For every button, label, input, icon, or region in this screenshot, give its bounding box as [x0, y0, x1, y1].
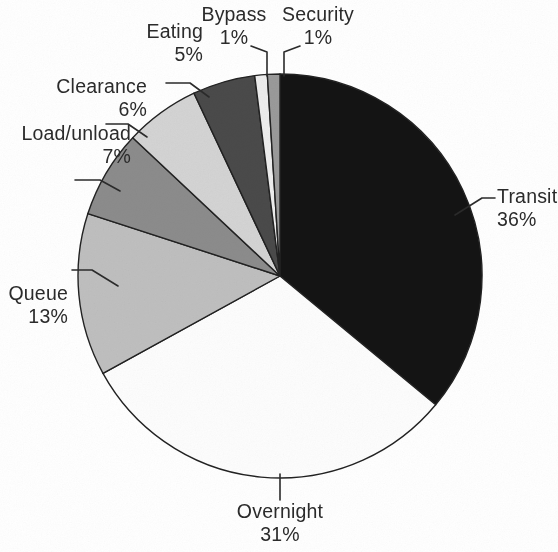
slice-label-load-unload: Load/unload 7%: [0, 122, 131, 168]
slice-label-queue-value: 13%: [0, 305, 68, 328]
slice-label-load-unload-value: 7%: [0, 145, 131, 168]
slice-label-clearance-value: 6%: [0, 98, 147, 121]
slice-label-clearance-name: Clearance: [0, 75, 147, 98]
slice-label-transit-name: Transit: [497, 185, 558, 208]
pie-chart-figure: Eating 5% Clearance 6% Load/unload 7% Qu…: [0, 0, 558, 552]
slice-label-eating: Eating 5%: [0, 20, 203, 66]
slice-label-eating-name: Eating: [0, 20, 203, 43]
slice-label-queue: Queue 13%: [0, 282, 68, 328]
slice-label-transit-value: 36%: [497, 208, 558, 231]
slice-label-clearance: Clearance 6%: [0, 75, 147, 121]
slice-label-load-unload-name: Load/unload: [0, 122, 131, 145]
slice-label-security: Security 1%: [268, 3, 368, 49]
slice-label-security-name: Security: [268, 3, 368, 26]
slice-label-queue-name: Queue: [0, 282, 68, 305]
slice-label-security-value: 1%: [268, 26, 368, 49]
slice-label-overnight: Overnight 31%: [222, 500, 338, 546]
slice-label-eating-value: 5%: [0, 43, 203, 66]
slice-label-overnight-value: 31%: [222, 523, 338, 546]
pie-slices-group: [78, 74, 482, 478]
slice-label-transit: Transit 36%: [497, 185, 558, 231]
slice-label-overnight-name: Overnight: [222, 500, 338, 523]
